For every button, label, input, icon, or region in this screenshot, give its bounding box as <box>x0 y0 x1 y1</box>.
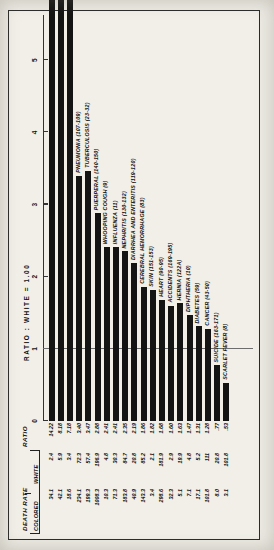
ratio-cell: 1.28 <box>203 423 212 449</box>
cause-label: INFLUENZA (11) <box>112 200 118 244</box>
white-rate-cell: 19.9 <box>176 453 185 487</box>
white-rate-cell: 111 <box>203 453 212 487</box>
cause-label: DIABETES (59) <box>194 283 200 324</box>
white-rate-cell: 5.9 <box>56 453 65 487</box>
colored-rate-cell: 234.1 <box>75 489 84 533</box>
bar-tuberculosis <box>85 171 91 421</box>
bar-cerebral <box>141 287 147 421</box>
bar-syphilis <box>58 0 64 421</box>
bar-influenza <box>113 247 119 421</box>
table-header-zone: DEATH RATE RATIO COLORED WHITE 34.142.11… <box>9 421 259 539</box>
ratio-cell: 1.86 <box>139 423 148 449</box>
colored-rate-cell: 298.6 <box>157 489 166 533</box>
bar-row: WHOOPING COUGH (9) <box>102 15 111 421</box>
ratio-cell: 2.35 <box>121 423 130 449</box>
cause-label: SCARLET FEVER (8) <box>222 323 228 379</box>
bar-row: NEPHRITIS (130-132) <box>121 15 130 421</box>
rotated-chart-canvas: DEATH RATE RATIO COLORED WHITE 34.142.11… <box>0 0 274 550</box>
cause-label: WHOOPING COUGH (9) <box>102 180 108 244</box>
bar-row: DIPHTHERIA (10) <box>185 15 194 421</box>
ratio-cell: 1.47 <box>185 423 194 449</box>
axis-title: RATIO : WHITE = 1.00 <box>23 264 30 361</box>
ratio-cell: 3.40 <box>75 423 84 449</box>
bar-suicide <box>214 365 220 421</box>
bar-row: PNEUMONIA (107-109) <box>75 15 84 421</box>
bar-accidents <box>168 306 174 421</box>
bar-homicide <box>67 0 73 421</box>
colored-rate-cell: 3.4 <box>148 489 157 533</box>
colored-value-column: 34.142.118.6234.1199.31008.310.371.3183.… <box>47 489 257 533</box>
x-tick-label-0: 0 <box>31 419 38 423</box>
bar-row: DIARRHEA AND ENTERITIS (119-120) <box>130 15 139 421</box>
bar-row: SCARLET FEVER (8) <box>222 15 231 421</box>
colored-rate-cell: 71.3 <box>111 489 120 533</box>
white-rate-cell: 181.9 <box>157 453 166 487</box>
colored-rate-cell: 7.1 <box>185 489 194 533</box>
white-rate-cell: 3.4 <box>65 453 74 487</box>
ratio-cell: 1.63 <box>176 423 185 449</box>
bar-whooping <box>104 247 110 421</box>
colored-rate-cell: 101.8 <box>203 489 212 533</box>
ratio-cell: .53 <box>222 423 231 449</box>
colored-rate-cell: 34.1 <box>47 489 56 533</box>
bar-nephritis <box>122 251 128 421</box>
ratio-cell: 2.41 <box>102 423 111 449</box>
cause-label: SKIN (151-153) <box>148 246 154 287</box>
white-rate-cell: 101.8 <box>222 453 231 487</box>
bar-row: ACCIDENTS (169-195) <box>167 15 176 421</box>
colored-rate-cell: 32.3 <box>167 489 176 533</box>
bar-puerperal <box>95 213 101 421</box>
death-rate-header: DEATH RATE <box>21 488 28 531</box>
cause-label: CANCER (43-50) <box>204 281 210 326</box>
plot-area: RATIO : WHITE = 1.00 012345 PELLAGRA (88… <box>9 15 259 421</box>
x-tick-label-2: 2 <box>31 275 38 279</box>
white-rate-cell: 5.2 <box>194 453 203 487</box>
bar-diphtheria <box>187 315 193 421</box>
white-rate-cell: 85.2 <box>139 453 148 487</box>
white-rate-cell: 196.9 <box>93 453 102 487</box>
ratio-cell: 2.88 <box>93 423 102 449</box>
cause-label: DIPHTHERIA (10) <box>185 265 191 312</box>
colored-rate-cell: 42.1 <box>56 489 65 533</box>
white-rate-cell: 20.8 <box>213 453 222 487</box>
ratio-header: RATIO <box>21 426 28 447</box>
cause-label: NEPHRITIS (130-132) <box>121 191 127 248</box>
ratio-cell: 1.68 <box>157 423 166 449</box>
bar-row: PELLAGRA (88) <box>47 15 56 421</box>
bar-scarlet <box>223 383 229 421</box>
bar-hernia <box>177 303 183 421</box>
bar-pellagra <box>49 0 55 421</box>
screenshot-root: DEATH RATE RATIO COLORED WHITE 34.142.11… <box>0 0 274 550</box>
colored-rate-cell: 10.3 <box>102 489 111 533</box>
x-tick-label-1: 1 <box>31 347 38 351</box>
bar-row: PUERPERAL (140-150) <box>93 15 102 421</box>
bar-row: TUBERCULOSIS (23-32) <box>84 15 93 421</box>
bar-diabetes <box>196 327 202 422</box>
ratio-cell: 2.19 <box>130 423 139 449</box>
colored-rate-cell: 8.0 <box>213 489 222 533</box>
x-tick-label-3: 3 <box>31 203 38 207</box>
cause-label: SUICIDE (163-171) <box>213 312 219 362</box>
colored-rate-cell: 143.3 <box>139 489 148 533</box>
colored-rate-cell: 183.8 <box>121 489 130 533</box>
colored-rate-cell: 5.1 <box>176 489 185 533</box>
white-rate-cell: 2.9 <box>167 453 176 487</box>
ratio-cell: 3.47 <box>84 423 93 449</box>
colored-rate-cell: 3.1 <box>222 489 231 533</box>
bar-row: SUICIDE (163-171) <box>213 15 222 421</box>
white-rate-cell: 4.8 <box>102 453 111 487</box>
x-tick-label-5: 5 <box>31 58 38 62</box>
cause-label: ACCIDENTS (169-195) <box>167 242 173 302</box>
ratio-cell: 1.82 <box>148 423 157 449</box>
ratio-cell: 2.41 <box>111 423 120 449</box>
cause-label: TUBERCULOSIS (23-32) <box>84 102 90 167</box>
chart-frame: DEATH RATE RATIO COLORED WHITE 34.142.11… <box>8 10 260 540</box>
bar-row: INFLUENZA (11) <box>111 15 120 421</box>
x-axis-line <box>43 15 44 421</box>
white-rate-cell: 2.1 <box>148 453 157 487</box>
white-value-column: 2.45.93.472.357.4196.94.830.384.720.885.… <box>47 453 257 487</box>
x-tick-label-4: 4 <box>31 131 38 135</box>
ratio-cell: 7.18 <box>65 423 74 449</box>
white-rate-cell: 30.3 <box>111 453 120 487</box>
bar-row: HOMICIDE (172-175) <box>65 15 74 421</box>
